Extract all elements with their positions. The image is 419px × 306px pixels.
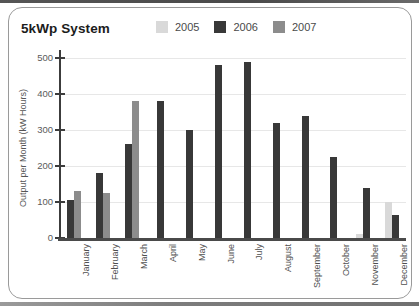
y-tick-label-300: 300 bbox=[23, 124, 53, 136]
bar-group-january bbox=[60, 58, 89, 238]
y-tick-label-0: 0 bbox=[23, 232, 53, 244]
bar-2006-november bbox=[363, 188, 370, 238]
scan-edge-bottom bbox=[0, 302, 419, 306]
y-axis-title: Output per Month (kW Hours) bbox=[17, 58, 29, 238]
bar-2007-february bbox=[103, 193, 110, 238]
bar-2006-june bbox=[215, 65, 222, 238]
bar-group-march bbox=[118, 58, 147, 238]
bar-2006-august bbox=[273, 123, 280, 238]
bar-2006-may bbox=[186, 130, 193, 238]
bar-group-april bbox=[146, 58, 175, 238]
bar-2006-april bbox=[157, 101, 164, 238]
x-tick-label-september: September bbox=[311, 244, 323, 299]
x-tick-label-november: November bbox=[369, 244, 381, 299]
x-tick-label-july: July bbox=[253, 244, 265, 299]
bar-2005-november bbox=[356, 234, 363, 238]
y-tick-label-100: 100 bbox=[23, 196, 53, 208]
bar-group-august bbox=[262, 58, 291, 238]
bars-area bbox=[60, 58, 406, 238]
bar-group-october bbox=[319, 58, 348, 238]
bar-2006-february bbox=[96, 173, 103, 238]
x-axis-line bbox=[58, 238, 406, 241]
bar-2007-january bbox=[74, 191, 81, 238]
x-tick-label-october: October bbox=[340, 244, 352, 299]
bar-2006-october bbox=[330, 157, 337, 238]
x-tick-label-february: February bbox=[109, 244, 121, 299]
plot-area: Output per Month (kW Hours) 010020030040… bbox=[9, 8, 413, 300]
bar-group-november bbox=[348, 58, 377, 238]
bar-group-february bbox=[89, 58, 118, 238]
x-tick-label-august: August bbox=[282, 244, 294, 299]
bar-2005-december bbox=[385, 202, 392, 238]
bar-group-july bbox=[233, 58, 262, 238]
x-tick-label-march: March bbox=[138, 244, 150, 299]
bar-2006-september bbox=[302, 116, 309, 238]
x-tick-label-april: April bbox=[167, 244, 179, 299]
y-tick-label-200: 200 bbox=[23, 160, 53, 172]
bar-2006-january bbox=[67, 200, 74, 238]
bar-group-june bbox=[204, 58, 233, 238]
x-tick-label-january: January bbox=[80, 244, 92, 299]
y-tick-label-400: 400 bbox=[23, 88, 53, 100]
chart-panel: 5kWp System 200520062007 Output per Mont… bbox=[8, 7, 412, 299]
x-tick-label-december: December bbox=[398, 244, 410, 299]
bar-2006-march bbox=[125, 144, 132, 238]
x-tick-label-june: June bbox=[225, 244, 237, 299]
scan-edge-top bbox=[0, 0, 419, 3]
bar-group-december bbox=[377, 58, 406, 238]
y-tick-label-500: 500 bbox=[23, 52, 53, 64]
bar-2006-december bbox=[392, 215, 399, 238]
bar-group-may bbox=[175, 58, 204, 238]
x-tick-label-may: May bbox=[196, 244, 208, 299]
bar-group-september bbox=[291, 58, 320, 238]
bar-2007-march bbox=[132, 101, 139, 238]
bar-2006-july bbox=[244, 62, 251, 238]
